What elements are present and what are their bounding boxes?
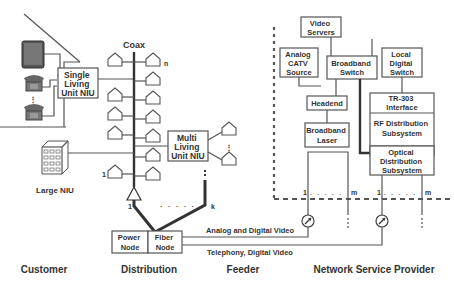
broadband-laser: Broadband Laser <box>305 123 349 147</box>
amplifier-icon <box>127 187 141 200</box>
optical-coupler-icon <box>302 215 314 227</box>
svg-text:TR-303 Interface: TR-303 Interface <box>386 94 417 112</box>
svg-text:RF Distribution Subsyste: RF Distribution Subsystem <box>374 119 430 138</box>
ellipsis: ⋮ <box>29 95 37 104</box>
optical-coupler-icon <box>376 215 388 227</box>
section-network-service-provider: Network Service Provider <box>313 264 434 275</box>
video-servers: Video Servers <box>301 17 341 37</box>
multi-living-unit-niu: Multi Living Unit NIU <box>168 131 208 161</box>
svg-text:1: 1 <box>377 189 381 196</box>
svg-text:Video Servers: Video Servers <box>307 19 335 37</box>
single-living-unit-niu: Single Living Unit NIU <box>58 68 98 98</box>
svg-text:Local Digital Swit: Local Digital Switch <box>389 50 414 77</box>
svg-text:1: 1 <box>102 171 106 178</box>
headend: Headend <box>307 96 347 110</box>
local-digital-switch: Local Digital Switch <box>382 48 422 77</box>
svg-text:1: 1 <box>303 189 307 196</box>
section-distribution: Distribution <box>121 264 177 275</box>
svg-text:n: n <box>164 60 168 67</box>
homes-right: n <box>134 53 168 180</box>
svg-text:Analog CATV Source: Analog CATV Source <box>285 50 313 77</box>
svg-text:Headend: Headend <box>311 99 343 108</box>
section-customer: Customer <box>21 264 68 275</box>
svg-text:m: m <box>425 189 431 196</box>
homes-left: 1 <box>102 53 134 178</box>
svg-text:. . . . .: . . . . . <box>384 190 417 196</box>
large-niu-label: Large NIU <box>36 186 74 195</box>
telephone-icon <box>24 104 44 120</box>
svg-text:⋮: ⋮ <box>225 143 233 152</box>
svg-text:. . . . .: . . . . . <box>310 190 343 196</box>
telephone-icon <box>24 75 44 91</box>
svg-text:k: k <box>211 203 215 210</box>
section-feeder: Feeder <box>227 264 260 275</box>
analog-catv-source: Analog CATV Source <box>280 48 318 77</box>
large-niu-building-icon <box>42 141 68 174</box>
analog-digital-video-label: Analog and Digital Video <box>206 226 295 235</box>
svg-text:Power Node: Power Node <box>118 233 143 252</box>
svg-text:1: 1 <box>128 203 132 210</box>
power-node: Power Node <box>112 231 148 253</box>
svg-text:Fiber Node: Fiber Node <box>155 233 175 252</box>
nsp-subsystem-stack: TR-303 Interface RF Distribution Subsyst… <box>370 93 434 175</box>
svg-text:. . . . .: . . . . . <box>160 201 196 208</box>
svg-text:m: m <box>351 189 357 196</box>
broadband-switch: Broadband Switch <box>327 56 377 79</box>
telephony-label: Telephony, Digital Video <box>207 248 293 257</box>
coax-label: Coax <box>123 40 145 50</box>
svg-text:Single Living Unit: Single Living Unit NIU <box>61 70 95 98</box>
network-architecture-diagram: ⋮ Single Living Unit NIU Coax 1 n <box>0 0 454 290</box>
television-icon <box>22 41 44 68</box>
fiber-node: Fiber Node <box>148 231 182 253</box>
